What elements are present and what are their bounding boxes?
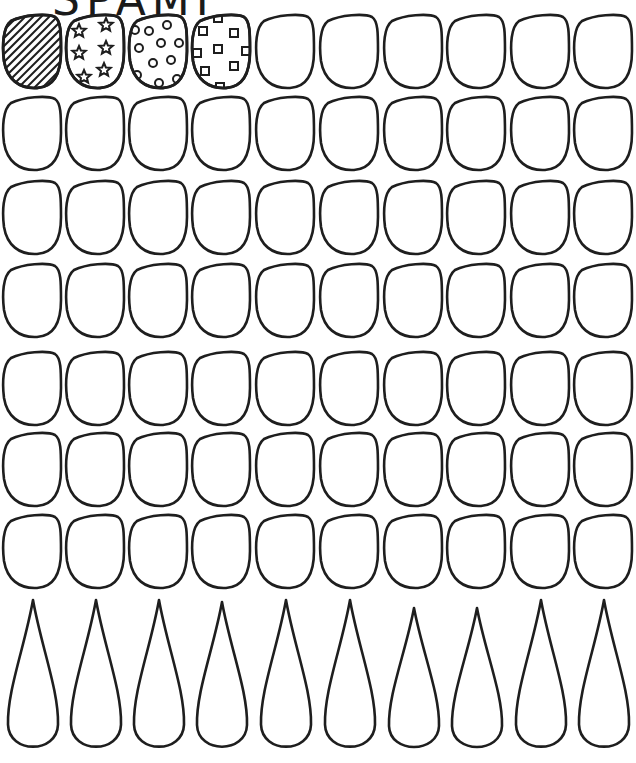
nail-outline	[3, 97, 61, 170]
nail-outline	[574, 97, 632, 170]
teardrop-nail-outline	[261, 600, 311, 747]
nail-outline	[66, 181, 124, 254]
nail-outline	[192, 515, 250, 588]
nail-outline	[320, 433, 378, 506]
nail-outline	[3, 181, 61, 254]
nail-outline	[192, 433, 250, 506]
nail-outline	[384, 15, 442, 88]
nail-outline	[320, 15, 378, 88]
nail-outline	[511, 433, 569, 506]
nail-outline	[384, 97, 442, 170]
nail-outline	[256, 97, 314, 170]
teardrop-nail-outline	[325, 600, 375, 747]
nail-outline	[3, 264, 61, 337]
nail-outline	[66, 433, 124, 506]
nail-outline	[447, 515, 505, 588]
nail-outline	[511, 352, 569, 425]
nail-template-sheet	[0, 0, 636, 763]
nail-outline	[129, 181, 187, 254]
nail-outline	[129, 515, 187, 588]
teardrop-nail-outline	[71, 600, 121, 747]
nail-outline	[574, 264, 632, 337]
nail-outline	[511, 15, 569, 88]
nail-outline	[511, 97, 569, 170]
nail-outline	[256, 264, 314, 337]
teardrop-nail-outline	[389, 608, 439, 747]
nail-outline	[511, 264, 569, 337]
teardrop-nail-outline	[579, 600, 629, 747]
nail-outline	[320, 264, 378, 337]
nail-outline	[384, 433, 442, 506]
nail-outline	[574, 15, 632, 88]
nail-example-stars	[66, 15, 124, 88]
nail-outline	[511, 515, 569, 588]
nail-outline	[320, 181, 378, 254]
teardrop-nail-outline	[134, 600, 184, 747]
teardrop-nail-row	[8, 600, 629, 747]
nail-outline	[384, 352, 442, 425]
teardrop-nail-outline	[516, 600, 566, 747]
nail-outline	[447, 433, 505, 506]
nail-outline	[447, 181, 505, 254]
nail-outline	[574, 515, 632, 588]
nail-outline	[192, 181, 250, 254]
nail-outline	[447, 352, 505, 425]
nail-outline	[192, 352, 250, 425]
nail-outline	[447, 264, 505, 337]
nail-outline	[129, 97, 187, 170]
nail-outline	[192, 264, 250, 337]
nail-outline	[384, 515, 442, 588]
nail-example-squares	[192, 14, 250, 91]
nail-outline	[256, 515, 314, 588]
nail-outline	[66, 352, 124, 425]
nail-outline	[256, 181, 314, 254]
nail-outline	[384, 181, 442, 254]
teardrop-nail-outline	[8, 600, 58, 747]
nail-outline	[192, 97, 250, 170]
nail-outline	[511, 181, 569, 254]
nail-outline	[447, 15, 505, 88]
nail-outline	[3, 515, 61, 588]
nail-example-polka-dots	[129, 15, 187, 88]
nail-outline	[129, 264, 187, 337]
teardrop-nail-outline	[197, 602, 247, 747]
nail-outline	[256, 433, 314, 506]
nail-outline	[574, 181, 632, 254]
nail-outline	[3, 352, 61, 425]
nail-outline	[447, 97, 505, 170]
teardrop-nail-outline	[452, 608, 502, 747]
nail-outline	[384, 264, 442, 337]
nail-outline	[320, 515, 378, 588]
nail-outline	[66, 264, 124, 337]
nail-outline	[129, 433, 187, 506]
nail-outline	[66, 515, 124, 588]
nail-outline	[66, 97, 124, 170]
nail-outline	[320, 352, 378, 425]
nail-outline	[3, 433, 61, 506]
nail-outline	[574, 352, 632, 425]
nail-outline	[320, 97, 378, 170]
nail-outline	[129, 352, 187, 425]
nail-outline	[256, 15, 314, 88]
nail-outline	[256, 352, 314, 425]
rounded-nail-grid	[0, 14, 632, 588]
nail-outline	[574, 433, 632, 506]
